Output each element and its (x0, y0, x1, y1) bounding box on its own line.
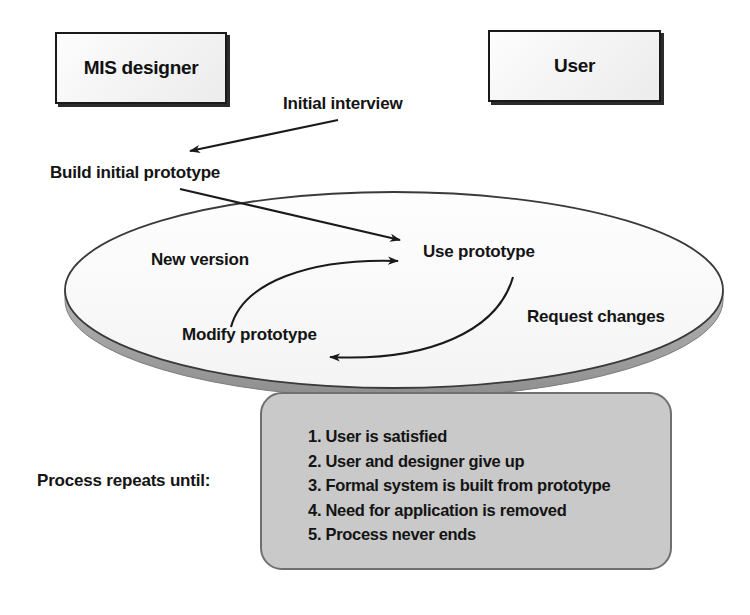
termination-conditions-list: 1. User is satisfied 2. User and designe… (308, 424, 610, 547)
arrow-initial-interview (190, 120, 338, 151)
list-item: 1. User is satisfied (308, 424, 610, 449)
diagram-canvas: MIS designer User Initial interview Buil… (0, 0, 750, 615)
prototyping-cycle-ellipse (65, 192, 723, 388)
label-new-version: New version (151, 250, 249, 270)
actor-label-user: User (554, 55, 595, 77)
label-request-changes: Request changes (527, 307, 665, 327)
label-process-repeats-until: Process repeats until: (37, 471, 210, 491)
label-initial-interview: Initial interview (283, 94, 402, 114)
list-item: 3. Formal system is built from prototype (308, 473, 610, 498)
termination-conditions-box: 1. User is satisfied 2. User and designe… (260, 392, 672, 570)
list-item: 4. Need for application is removed (308, 498, 610, 523)
label-build-initial-prototype: Build initial prototype (50, 163, 220, 183)
actor-box-user[interactable]: User (488, 30, 661, 102)
label-modify-prototype: Modify prototype (182, 325, 317, 345)
list-item: 2. User and designer give up (308, 449, 610, 474)
actor-label-mis-designer: MIS designer (84, 57, 199, 79)
label-use-prototype: Use prototype (423, 242, 535, 262)
list-item: 5. Process never ends (308, 522, 610, 547)
actor-box-mis-designer[interactable]: MIS designer (55, 32, 227, 104)
